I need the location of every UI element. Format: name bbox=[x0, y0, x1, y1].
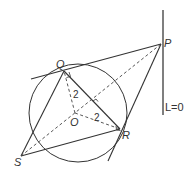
label-Q: Q bbox=[56, 58, 65, 70]
tangent-PQ bbox=[31, 44, 161, 79]
line-SR bbox=[21, 129, 120, 156]
label-R: R bbox=[122, 129, 130, 141]
radius-label-OR: 2 bbox=[94, 112, 100, 123]
line-SQ bbox=[21, 71, 64, 156]
label-L: L=0 bbox=[165, 101, 184, 113]
tangent-PR bbox=[108, 44, 161, 161]
dashed-SP bbox=[21, 44, 161, 156]
label-O: O bbox=[70, 116, 79, 128]
label-S: S bbox=[14, 156, 22, 168]
radius-label-OQ: 2 bbox=[73, 89, 79, 100]
circle bbox=[29, 64, 127, 162]
label-P: P bbox=[164, 37, 172, 49]
geometry-diagram: P Q R O S L=0 2 2 bbox=[0, 0, 192, 176]
